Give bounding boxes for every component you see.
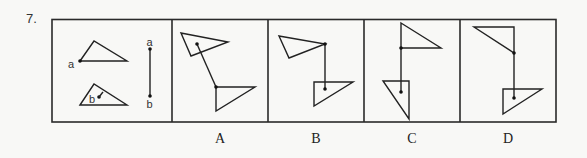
option-a-figure[interactable] [181, 33, 255, 111]
option-b-lower-triangle [314, 82, 353, 106]
option-b-lower-dot [323, 87, 327, 91]
option-c-upper-triangle [401, 23, 441, 48]
segment-bottom-label: b [147, 98, 153, 110]
point-b-tick [99, 92, 103, 97]
triangle-b-label: b [89, 93, 95, 105]
option-a-lower-dot [214, 85, 218, 89]
point-a-dot [78, 59, 82, 63]
reference-triangle-a [80, 41, 127, 61]
outer-frame [52, 20, 556, 123]
option-c-upper-dot [399, 46, 403, 50]
puzzle-figure: 7. a b a b [0, 0, 587, 158]
option-d-upper-dot [512, 51, 516, 55]
option-c-lower-triangle [383, 81, 409, 119]
option-b-figure[interactable] [279, 36, 353, 106]
reference-triangle-b [80, 84, 127, 105]
option-d-label[interactable]: D [498, 131, 518, 147]
option-c-lower-dot [399, 90, 403, 94]
triangle-a-label: a [68, 58, 75, 70]
reference-panel: a b a b [68, 36, 154, 110]
option-b-label[interactable]: B [306, 131, 326, 147]
segment-top-label: a [147, 36, 154, 48]
option-d-lower-dot [512, 96, 516, 100]
option-c-figure[interactable] [383, 23, 441, 119]
option-b-upper-dot [323, 42, 327, 46]
option-a-upper-triangle [181, 33, 228, 56]
option-b-upper-triangle [279, 36, 325, 58]
option-c-label[interactable]: C [402, 131, 422, 147]
option-a-upper-dot [195, 42, 199, 46]
option-d-lower-triangle [503, 89, 542, 114]
option-d-figure[interactable] [474, 27, 542, 114]
option-a-label[interactable]: A [210, 131, 230, 147]
option-a-lower-triangle [216, 87, 255, 111]
option-d-upper-triangle [474, 27, 514, 53]
